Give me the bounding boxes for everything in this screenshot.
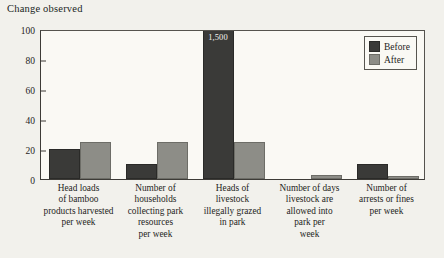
bar-after[interactable] (311, 175, 342, 180)
legend-item-after[interactable]: After (369, 53, 410, 66)
bar-after[interactable] (157, 142, 188, 180)
bar-before[interactable]: 1,500 (203, 31, 234, 179)
bar-before[interactable] (49, 149, 80, 179)
bar-after[interactable] (234, 142, 265, 180)
bar-group (41, 31, 118, 179)
x-axis-label: Number ofarrests or finesper week (339, 183, 434, 217)
legend-swatch-before-icon (369, 41, 380, 52)
chart-title: Change observed (7, 3, 83, 14)
y-axis-tick-label: 80 (26, 56, 36, 66)
x-axis-label-line: per week (108, 229, 203, 240)
bar-group: 1,500 (195, 31, 272, 179)
bar-value-label: 1,500 (204, 32, 233, 42)
bar-before[interactable] (126, 164, 157, 179)
x-axis-category-labels: Head loadsof bambooproducts harvestedper… (40, 183, 425, 255)
x-axis-label-line: per week (339, 206, 434, 217)
y-axis-tick-label: 60 (26, 86, 36, 96)
legend-item-before[interactable]: Before (369, 40, 410, 53)
x-axis-label-line: Number of (339, 183, 434, 194)
y-axis-tick-label: 100 (21, 26, 35, 36)
bar-group (118, 31, 195, 179)
chart-legend: Before After (364, 36, 417, 70)
bar-chart: Change observed 020406080100 1,500 Head … (0, 0, 444, 258)
x-axis-label-line: arrests or fines (339, 194, 434, 205)
bar-after[interactable] (388, 176, 419, 179)
y-axis-tick-label: 40 (26, 116, 36, 126)
bar-before[interactable] (357, 164, 388, 179)
bar-group (272, 31, 349, 179)
x-axis-label-line: park per (262, 217, 357, 228)
y-axis-tick-label: 20 (26, 146, 36, 156)
legend-label-before: Before (384, 42, 410, 52)
legend-label-after: After (384, 55, 404, 65)
legend-swatch-after-icon (369, 54, 380, 65)
x-axis-label-line: week (262, 229, 357, 240)
bar-after[interactable] (80, 142, 111, 180)
